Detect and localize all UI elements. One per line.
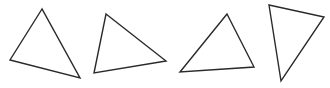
triangle-1	[10, 9, 80, 78]
triangle-2	[94, 14, 166, 73]
triangles-figure	[0, 0, 330, 88]
triangle-3	[180, 14, 254, 72]
triangle-4	[269, 5, 324, 81]
